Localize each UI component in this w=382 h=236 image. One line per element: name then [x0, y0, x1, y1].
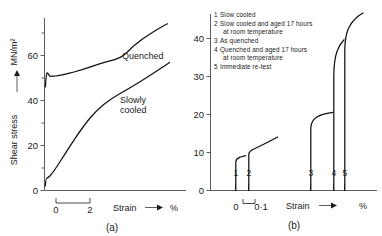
x-axis-units-a: %: [170, 203, 178, 213]
curve-label-quenched: Quenched: [122, 51, 164, 61]
x-axis-arrow-b: [319, 203, 337, 209]
y-ticks-b: [207, 39, 211, 191]
panel-caption-b: (b): [288, 220, 300, 231]
legend-item-3-line1: As quenched: [220, 37, 259, 45]
curve-number-label-4: 4: [331, 168, 336, 178]
legend-item-2-number: 2: [214, 20, 218, 27]
x-ticks-b: [236, 184, 345, 191]
legend-item-4-line2: at room temperature: [223, 54, 283, 62]
curve-b-3: [311, 112, 333, 190]
y-tick-label-b-20: 20: [193, 109, 204, 120]
curve-number-label-3: 3: [308, 168, 313, 178]
curve-label-slowly-cooled-line1: Slowly: [120, 95, 147, 105]
curve-b-2: [249, 137, 278, 191]
x-scalebar-label-left-a: 0: [53, 204, 58, 215]
y-tick-label-a-0: 0: [33, 185, 38, 196]
y-axis-units-a: MN/m²: [9, 39, 19, 66]
y-tick-label-b-10: 10: [193, 147, 204, 158]
legend-item-5-number: 5: [214, 63, 218, 70]
legend-item-2-line2: at room temperature: [223, 28, 283, 36]
x-axis-arrow-a: [145, 205, 163, 211]
legend-item-2-line1: Slow cooled and aged 17 hours: [220, 20, 312, 28]
curve-number-label-2: 2: [246, 168, 251, 178]
x-axis-title-b: Strain: [286, 201, 310, 211]
y-tick-label-a-60: 60: [27, 50, 38, 61]
y-axis-title-a: Shear stress: [9, 114, 19, 165]
panel-caption-a: (a): [106, 222, 118, 233]
y-ticks-a: [41, 33, 45, 191]
y-tick-label-a-40: 40: [27, 95, 38, 106]
curve-label-slowly-cooled-line2: cooled: [120, 105, 147, 115]
figure-container: 0 20 40 60 MN/m² Shear stress 0 2 Strain: [0, 0, 382, 236]
axis-lines-a: [45, 18, 187, 191]
x-scalebar-a: [56, 198, 90, 203]
curve-b-5: [345, 13, 363, 191]
x-scalebar-label-right-b: 0·1: [254, 201, 268, 212]
y-tick-label-b-0: 0: [199, 185, 204, 196]
x-axis-title-a: Strain: [113, 203, 137, 213]
curve-number-label-5: 5: [342, 168, 347, 178]
x-axis-units-b: %: [359, 201, 367, 211]
legend-item-4-line1: Quenched and aged 17 hours: [220, 46, 307, 54]
y-tick-label-b-30: 30: [193, 71, 204, 82]
legend-b: 1 Slow cooled 2 Slow cooled and aged 17 …: [214, 11, 312, 70]
legend-item-1-number: 1: [214, 11, 218, 18]
legend-item-1-line1: Slow cooled: [220, 11, 256, 18]
panel-a-plot: 0 20 40 60 MN/m² Shear stress 0 2 Strain: [0, 0, 191, 236]
y-tick-label-a-20: 20: [27, 140, 38, 151]
legend-item-3-number: 3: [214, 37, 218, 44]
curve-number-label-1: 1: [233, 168, 238, 178]
y-axis-arrow-a: [14, 70, 20, 92]
legend-item-4-number: 4: [214, 46, 218, 53]
panel-a: 0 20 40 60 MN/m² Shear stress 0 2 Strain: [0, 0, 191, 236]
panel-b-plot: 0 10 20 30 40 MN/m² Stress: [191, 0, 382, 236]
y-tick-label-b-40: 40: [193, 33, 204, 44]
x-scalebar-label-left-b: 0: [233, 201, 238, 212]
legend-item-5-line1: Immediate re-test: [220, 63, 272, 70]
x-scalebar-label-right-a: 2: [87, 204, 92, 215]
curve-slowly-cooled: [45, 62, 169, 186]
panel-b: 0 10 20 30 40 MN/m² Stress: [191, 0, 382, 236]
